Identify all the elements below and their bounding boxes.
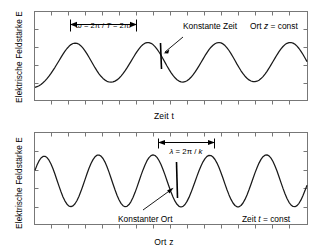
constant-position-marker bbox=[177, 162, 178, 198]
x-ticks-top-upper bbox=[52, 12, 290, 16]
wave-figure: Elektrische Feldstärke E Zeit t bbox=[0, 0, 316, 252]
constant-time-label-bottom: Zeit t = const bbox=[242, 214, 291, 224]
constant-position-label: Ort z = const bbox=[250, 21, 298, 31]
plot-area-bottom: λ = 2π / k Konstanter Ort Zeit t = const bbox=[0, 126, 316, 252]
wavelength-formula-bottom: λ = 2π / k bbox=[169, 147, 204, 156]
constant-time-pointer bbox=[164, 37, 183, 53]
x-ticks-top bbox=[52, 101, 290, 105]
constant-position-pointer bbox=[143, 188, 174, 210]
panel-space-domain: Elektrische Feldstärke E Ort z bbox=[0, 126, 316, 252]
period-formula-top: ω = 2π / T = 2πf bbox=[76, 21, 132, 30]
constant-position-label-bottom: Konstanter Ort bbox=[118, 214, 173, 224]
constant-time-marker bbox=[161, 43, 162, 69]
x-ticks-bottom-upper bbox=[52, 133, 290, 137]
wavelength-arrow-head-right bbox=[208, 140, 215, 145]
wave-curve-top bbox=[35, 43, 307, 88]
y-ticks-top bbox=[35, 30, 308, 84]
plot-area-top: ω = 2π / T = 2πf Konstante Zeit Ort z = … bbox=[0, 0, 316, 126]
wavelength-arrow-head-left bbox=[158, 140, 165, 145]
constant-time-label: Konstante Zeit bbox=[183, 21, 238, 31]
panel-time-domain: Elektrische Feldstärke E Zeit t bbox=[0, 0, 316, 126]
x-ticks-bottom bbox=[52, 225, 290, 229]
y-ticks-bottom bbox=[35, 152, 308, 208]
wave-curve-bottom bbox=[35, 155, 307, 207]
